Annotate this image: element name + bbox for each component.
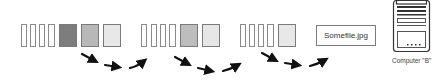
flow-arrows <box>0 0 440 83</box>
arrow-icon <box>105 65 118 67</box>
arrow-icon <box>285 63 298 65</box>
arrow-icon <box>82 54 95 61</box>
arrow-icon <box>223 65 238 71</box>
arrow-icon <box>262 53 275 60</box>
arrow-icon <box>310 60 325 66</box>
arrow-icon <box>175 57 188 64</box>
arrow-icon <box>198 68 211 71</box>
arrow-icon <box>130 61 144 68</box>
